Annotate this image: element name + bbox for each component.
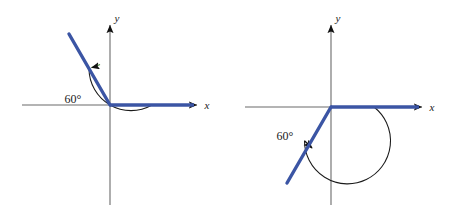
angle-arc-arrowhead-left xyxy=(92,65,101,68)
x-axis-label-right: x xyxy=(429,101,435,113)
figure-panel-left: x y 60° xyxy=(0,0,229,218)
y-axis-label-right: y xyxy=(335,12,341,24)
terminal-side-ray-right xyxy=(287,107,331,183)
figure-panel-right: x y 60° xyxy=(229,0,458,218)
angle-arc-right xyxy=(304,107,390,184)
angle-measure-label-left: 60° xyxy=(65,92,82,106)
coordinate-plane-right: x y 60° xyxy=(229,0,458,218)
two-angle-diagrams: x y 60° xyxy=(0,0,458,218)
x-axis-label-left: x xyxy=(204,99,210,111)
coordinate-plane-left: x y 60° xyxy=(0,0,229,218)
y-axis-label-left: y xyxy=(114,12,120,24)
angle-measure-label-right: 60° xyxy=(277,129,294,143)
